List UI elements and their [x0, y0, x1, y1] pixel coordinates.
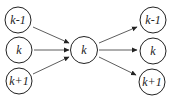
node-center-k: k — [71, 37, 98, 64]
node-output-k-minus-1: k-1 — [140, 7, 166, 33]
node-input-k-plus-1: k+1 — [6, 68, 32, 94]
diagram-canvas: k-1 k k+1 k k-1 k k+1 — [0, 0, 172, 101]
node-label: k+1 — [142, 75, 161, 89]
node-label: k-1 — [145, 13, 160, 27]
edge-km1-to-center — [33, 27, 69, 43]
node-input-k: k — [6, 37, 32, 63]
node-label: k — [150, 44, 156, 58]
node-input-k-minus-1: k-1 — [5, 7, 31, 33]
edge-center-to-km1 — [99, 27, 137, 43]
node-output-k-plus-1: k+1 — [139, 69, 165, 95]
node-label: k-1 — [10, 13, 25, 27]
node-label: k — [81, 43, 87, 57]
edge-kp1-to-center — [33, 57, 69, 74]
edge-center-to-kp1 — [99, 57, 136, 75]
node-label: k+1 — [9, 74, 28, 88]
node-output-k: k — [140, 38, 166, 64]
node-label: k — [16, 43, 22, 57]
